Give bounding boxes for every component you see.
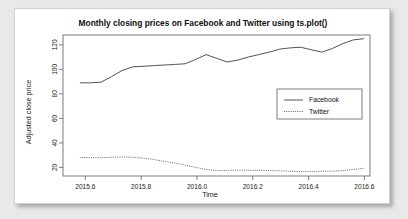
legend-label-twitter: Twitter [309,108,330,115]
series-line-twitter [80,157,364,172]
y-tick-label: 100 [51,64,58,75]
series-line-facebook [80,39,364,83]
y-axis-label: Adjusted close price [24,80,33,144]
screenshot-canvas: Monthly closing prices on Facebook and T… [0,0,408,219]
x-axis-label: Time [202,190,218,199]
legend-label-facebook: Facebook [309,96,339,103]
chart-plot-area: Monthly closing prices on Facebook and T… [15,9,391,205]
line-chart: Monthly closing prices on Facebook and T… [15,9,391,205]
x-axis-tick-labels: 2015.62015.82016.02016.22016.42016.6 [75,183,375,190]
y-tick-label: 80 [52,90,59,98]
y-tick-label: 120 [52,39,59,50]
chart-legend: FacebookTwitter [277,89,362,119]
x-tick-label: 2016.2 [243,183,264,190]
x-tick-label: 2016.6 [354,183,375,190]
y-tick-label: 20 [52,163,59,171]
x-tick-label: 2016.0 [187,183,208,190]
chart-title: Monthly closing prices on Facebook and T… [79,18,328,28]
y-tick-label: 40 [52,139,59,147]
x-axis-ticks [85,176,364,180]
chart-card: Monthly closing prices on Facebook and T… [14,8,390,204]
x-tick-label: 2015.8 [131,183,152,190]
x-tick-label: 2015.6 [75,183,96,190]
x-tick-label: 2016.4 [299,183,320,190]
y-axis-tick-labels: 20406080100120 [51,39,58,171]
y-axis-ticks [59,45,63,168]
y-tick-label: 60 [52,114,59,122]
